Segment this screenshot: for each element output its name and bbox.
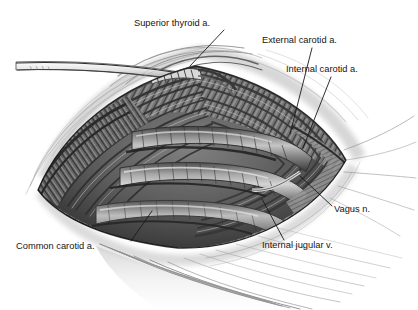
label-internal-jugular-vein: Internal jugular v.	[262, 240, 333, 250]
label-common-carotid-artery: Common carotid a.	[16, 241, 95, 251]
label-internal-carotid-artery: Internal carotid a.	[286, 64, 358, 74]
label-external-carotid-artery: External carotid a.	[262, 35, 337, 45]
illustration-figure: Superior thyroid a. External carotid a. …	[0, 0, 418, 310]
anatomical-illustration: Superior thyroid a. External carotid a. …	[0, 0, 418, 310]
label-vagus-nerve: Vagus n.	[334, 204, 370, 214]
label-superior-thyroid-artery: Superior thyroid a.	[134, 18, 210, 28]
